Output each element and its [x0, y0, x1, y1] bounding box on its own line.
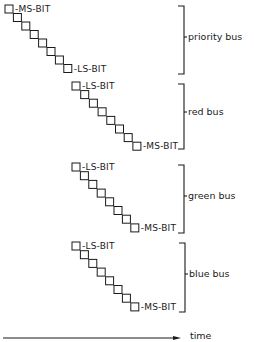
bus-name-label: green bus [188, 190, 236, 201]
bit-cell [89, 259, 97, 267]
bit-cell [55, 56, 63, 64]
bit-cell [97, 268, 105, 276]
bit-cell [131, 303, 139, 311]
bit-cell [122, 215, 130, 223]
time-axis: time [3, 330, 212, 341]
top-bit-label: -MS-BIT [15, 4, 51, 14]
bit-cell [122, 294, 130, 302]
bus-group-green-bus: -LS-BIT-MS-BITgreen bus [72, 162, 236, 233]
bit-cell [133, 142, 141, 150]
bit-cell [114, 207, 122, 215]
bit-cell [89, 180, 97, 188]
bit-cell [106, 277, 114, 285]
bit-cell [72, 163, 80, 171]
top-bit-label: -LS-BIT [82, 241, 115, 251]
bit-cell [106, 198, 114, 206]
bus-name-label: blue bus [189, 268, 230, 279]
bus-bracket [178, 84, 184, 149]
top-bit-label: -LS-BIT [82, 81, 115, 91]
bit-cell [114, 286, 122, 294]
bit-cell [80, 172, 88, 180]
bit-cell [124, 134, 132, 142]
bit-cell [64, 65, 72, 73]
bit-cell [80, 251, 88, 259]
bit-cell [39, 39, 47, 47]
bus-group-red-bus: -LS-BIT-MS-BITred bus [72, 81, 224, 151]
bit-cell [22, 22, 30, 30]
bus-timing-diagram: -MS-BIT-LS-BITpriority bus-LS-BIT-MS-BIT… [0, 0, 254, 342]
time-label: time [190, 330, 212, 341]
bus-name-label: priority bus [188, 31, 242, 42]
bus-group-blue-bus: -LS-BIT-MS-BITblue bus [72, 241, 230, 312]
bit-cell [98, 108, 106, 116]
bus-bracket [178, 6, 184, 74]
bus-bracket [178, 165, 184, 233]
bit-cell [5, 5, 13, 13]
bottom-bit-label: -MS-BIT [141, 223, 177, 233]
bottom-bit-label: -LS-BIT [74, 64, 107, 74]
bit-cell [47, 48, 55, 56]
bit-cell [30, 31, 38, 39]
bit-cell [116, 125, 124, 133]
bus-bracket [179, 243, 185, 312]
bus-group-priority-bus: -MS-BIT-LS-BITpriority bus [5, 4, 242, 74]
bit-cell [81, 91, 89, 99]
bottom-bit-label: -MS-BIT [143, 141, 179, 151]
bottom-bit-label: -MS-BIT [141, 302, 177, 312]
bit-cell [89, 99, 97, 107]
bit-cell [97, 189, 105, 197]
bit-cell [13, 14, 21, 22]
bit-cell [107, 116, 115, 124]
bit-cell [131, 224, 139, 232]
bit-cell [72, 82, 80, 90]
top-bit-label: -LS-BIT [82, 162, 115, 172]
time-arrowhead-icon [173, 336, 181, 340]
bus-name-label: red bus [188, 106, 224, 117]
bit-cell [72, 242, 80, 250]
